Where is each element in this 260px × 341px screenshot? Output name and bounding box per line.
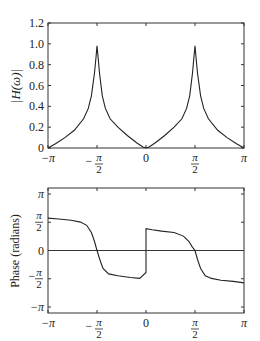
phase-x-ticks: −π−π20π2π xyxy=(41,188,248,340)
svg-text:2: 2 xyxy=(96,328,102,340)
svg-text:π: π xyxy=(192,316,198,328)
phase-y-tick-label: π xyxy=(38,187,45,201)
svg-text:0: 0 xyxy=(143,151,149,165)
svg-text:1.0: 1.0 xyxy=(29,37,44,51)
svg-text:2: 2 xyxy=(36,221,42,233)
svg-text:0.2: 0.2 xyxy=(29,120,44,134)
svg-text:0: 0 xyxy=(38,244,44,258)
phase-x-tick-label: −π2 xyxy=(86,316,103,340)
phase-x-tick-label: π xyxy=(241,316,248,330)
svg-text:π: π xyxy=(241,316,248,330)
svg-text:π: π xyxy=(96,316,102,328)
magnitude-y-tick-label: 0.4 xyxy=(29,99,44,113)
svg-text:−: − xyxy=(29,269,36,283)
magnitude-y-tick-label: 0.8 xyxy=(29,58,44,72)
magnitude-y-ticks: 00.20.40.60.81.01.2 xyxy=(29,16,244,155)
magnitude-y-tick-label: 1.2 xyxy=(29,16,44,30)
svg-text:0.4: 0.4 xyxy=(29,99,44,113)
magnitude-curve xyxy=(48,46,244,148)
magnitude-plot: 00.20.40.60.81.01.2 −π−π20π2π |H(ω)| xyxy=(8,16,248,175)
magnitude-x-tick-label: 0 xyxy=(143,151,149,165)
svg-text:1.2: 1.2 xyxy=(29,16,44,30)
svg-text:2: 2 xyxy=(96,163,102,175)
svg-text:−π: −π xyxy=(41,151,56,165)
magnitude-y-tick-label: 1.0 xyxy=(29,37,44,51)
magnitude-y-tick-label: 0.6 xyxy=(29,79,44,93)
svg-text:π: π xyxy=(192,151,198,163)
svg-text:−π: −π xyxy=(41,316,56,330)
svg-text:π: π xyxy=(96,151,102,163)
magnitude-plot-frame xyxy=(48,23,244,148)
magnitude-x-tick-label: π xyxy=(241,151,248,165)
svg-text:π: π xyxy=(38,187,45,201)
phase-plot: −π−π20π2π −π−π20π2π Phase (radians) xyxy=(8,187,248,340)
svg-text:−: − xyxy=(86,154,93,168)
phase-y-tick-label: π2 xyxy=(35,209,43,233)
magnitude-y-tick-label: 0.2 xyxy=(29,120,44,134)
magnitude-x-tick-label: π2 xyxy=(191,151,199,175)
magnitude-y-axis-label: |H(ω)| xyxy=(8,69,23,103)
phase-y-tick-label: −π xyxy=(30,300,45,314)
phase-y-tick-label: 0 xyxy=(38,244,44,258)
svg-text:0.8: 0.8 xyxy=(29,58,44,72)
figure: 00.20.40.60.81.01.2 −π−π20π2π |H(ω)| −π−… xyxy=(0,0,260,341)
svg-text:2: 2 xyxy=(192,328,198,340)
magnitude-x-tick-label: −π2 xyxy=(86,151,103,175)
phase-y-tick-label: −π2 xyxy=(29,266,43,290)
magnitude-x-ticks: −π−π20π2π xyxy=(41,23,248,175)
svg-text:−: − xyxy=(86,319,93,333)
svg-text:π: π xyxy=(36,266,42,278)
phase-x-tick-label: −π xyxy=(41,316,56,330)
svg-text:π: π xyxy=(241,151,248,165)
phase-x-tick-label: 0 xyxy=(143,316,149,330)
svg-text:0.6: 0.6 xyxy=(29,79,44,93)
svg-text:2: 2 xyxy=(192,163,198,175)
phase-x-tick-label: π2 xyxy=(191,316,199,340)
svg-text:2: 2 xyxy=(36,278,42,290)
svg-text:0: 0 xyxy=(143,316,149,330)
phase-y-axis-label: Phase (radians) xyxy=(8,214,22,288)
magnitude-x-tick-label: −π xyxy=(41,151,56,165)
svg-text:π: π xyxy=(36,209,42,221)
svg-text:−π: −π xyxy=(30,300,45,314)
